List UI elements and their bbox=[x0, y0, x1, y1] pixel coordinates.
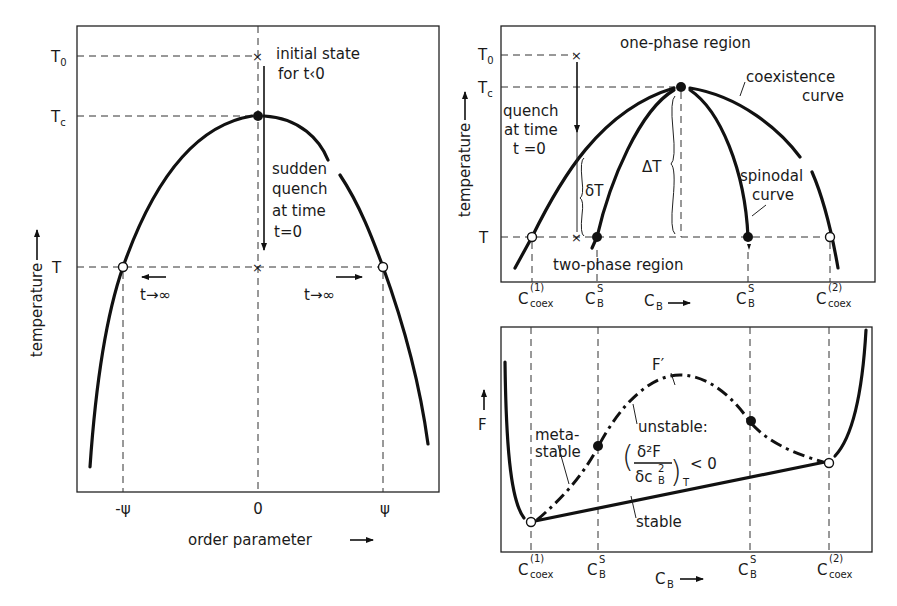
left-panel: × × initial state for t‹0 sudden quench … bbox=[28, 26, 439, 549]
spinodal-point-left bbox=[592, 232, 602, 242]
phase-diagram-figure: × × initial state for t‹0 sudden quench … bbox=[0, 0, 897, 606]
t-tick-label: T bbox=[51, 259, 62, 277]
svg-text:): ) bbox=[670, 454, 682, 489]
free-energy-left-branch bbox=[505, 362, 524, 518]
tc-tick-label: Tc bbox=[50, 108, 66, 128]
psi-tick: ψ bbox=[380, 500, 390, 518]
bottom-y-axis-label: F bbox=[478, 390, 487, 434]
svg-text:2: 2 bbox=[658, 463, 664, 474]
left-y-axis-label: temperature bbox=[28, 230, 46, 357]
phase-diagram-frame bbox=[501, 26, 875, 282]
initial-state-label-2: for t‹0 bbox=[278, 65, 325, 83]
svg-text:C: C bbox=[518, 290, 528, 308]
svg-text:(2): (2) bbox=[829, 553, 843, 564]
spinodal-point-left bbox=[593, 441, 603, 451]
svg-text:C: C bbox=[587, 561, 597, 579]
top-x-tick-ccoex2: C (2) coex bbox=[816, 282, 852, 309]
bottom-x-tick-cbs-left: C S B bbox=[587, 554, 606, 580]
sudden-quench-label-4: t=0 bbox=[274, 223, 302, 241]
svg-text:S: S bbox=[599, 554, 605, 565]
svg-text:C: C bbox=[655, 570, 665, 588]
svg-text:S: S bbox=[597, 283, 603, 294]
t0-tick-label: T0 bbox=[477, 46, 494, 66]
svg-text:(1): (1) bbox=[530, 282, 544, 293]
svg-text:temperature: temperature bbox=[456, 123, 474, 217]
quench-state-marker: × bbox=[571, 230, 582, 245]
spinodal-label-2: curve bbox=[752, 186, 794, 204]
coex-point-left bbox=[527, 518, 536, 527]
left-x-axis-label: order parameter bbox=[188, 531, 313, 549]
svg-text:coex: coex bbox=[530, 569, 554, 580]
stable-label: stable bbox=[636, 513, 682, 531]
initial-state-marker: × bbox=[252, 49, 263, 64]
free-energy-right-branch bbox=[835, 330, 866, 456]
sudden-quench-label-2: quench bbox=[272, 180, 328, 198]
svg-text:(1): (1) bbox=[530, 553, 544, 564]
bottom-x-tick-ccoex2: C (2) coex bbox=[817, 553, 853, 580]
svg-text:B: B bbox=[667, 579, 674, 590]
unstable-leader bbox=[633, 404, 637, 424]
quench-label-1: quench bbox=[503, 102, 559, 120]
critical-point-dot bbox=[253, 111, 263, 121]
spinodal-curve-left bbox=[592, 90, 674, 248]
two-phase-region-label: two-phase region bbox=[553, 256, 684, 274]
svg-text:C: C bbox=[518, 561, 528, 579]
quench-state-marker: × bbox=[252, 260, 263, 275]
t0-tick-label: T0 bbox=[50, 48, 67, 68]
svg-text:B: B bbox=[599, 569, 606, 580]
svg-text:(: ( bbox=[622, 439, 634, 474]
coexistence-leader bbox=[740, 82, 745, 96]
svg-text:C: C bbox=[736, 290, 746, 308]
delta-small-brace bbox=[580, 158, 584, 236]
coexistence-label-1: coexistence bbox=[746, 68, 835, 86]
bottom-x-axis-label: C B bbox=[655, 570, 703, 590]
sudden-quench-label-1: sudden bbox=[272, 160, 327, 178]
one-phase-region-label: one-phase region bbox=[620, 34, 751, 52]
stability-criterion-formula: ( δ²F δc 2 B ) T < 0 bbox=[622, 439, 717, 489]
spinodal-point-right bbox=[743, 232, 753, 242]
svg-text:coex: coex bbox=[829, 569, 853, 580]
coex-point-right bbox=[825, 459, 834, 468]
unstable-label: unstable: bbox=[638, 418, 708, 436]
sudden-quench-label-3: at time bbox=[272, 202, 326, 220]
top-right-panel: × × one-phase region two-phase region co… bbox=[456, 26, 875, 312]
svg-text:(2): (2) bbox=[828, 282, 842, 293]
minus-psi-tick: -ψ bbox=[115, 500, 130, 518]
svg-text:temperature: temperature bbox=[28, 263, 46, 357]
delta-big-brace bbox=[671, 96, 675, 234]
bottom-right-panel: F′ meta- stable unstable: ( δ²F δc 2 B )… bbox=[478, 327, 872, 590]
svg-text:B: B bbox=[656, 301, 663, 312]
coexistence-label-2: curve bbox=[802, 87, 844, 105]
bottom-x-tick-cbs-right: C S B bbox=[738, 554, 757, 580]
top-x-tick-cbs-right: C S B bbox=[736, 283, 755, 309]
t-infinity-left-label: t→∞ bbox=[140, 286, 171, 304]
critical-point-dot bbox=[676, 82, 686, 92]
svg-text:F: F bbox=[478, 416, 487, 434]
t-tick-label: T bbox=[478, 229, 489, 247]
top-x-tick-cbs-left: C S B bbox=[585, 283, 604, 309]
svg-text:S: S bbox=[748, 283, 754, 294]
delta-small-label: δT bbox=[585, 182, 604, 200]
metastable-label-1: meta- bbox=[535, 426, 579, 444]
top-x-axis-label: C B bbox=[644, 292, 690, 312]
tc-tick-label: Tc bbox=[477, 79, 493, 99]
bottom-x-tick-ccoex1: C (1) coex bbox=[518, 553, 554, 580]
delta-big-label: ΔT bbox=[642, 158, 662, 176]
quench-label-3: t =0 bbox=[513, 140, 546, 158]
spinodal-curve-right bbox=[690, 90, 748, 237]
svg-text:B: B bbox=[597, 298, 604, 309]
spinodal-label-1: spinodal bbox=[740, 167, 803, 185]
f-prime-label: F′ bbox=[652, 356, 665, 374]
svg-text:δc: δc bbox=[635, 468, 652, 486]
svg-text:C: C bbox=[644, 292, 654, 310]
svg-text:δ²F: δ²F bbox=[637, 443, 661, 461]
initial-state-label: initial state bbox=[276, 45, 360, 63]
quench-label-2: at time bbox=[504, 121, 558, 139]
svg-text:T: T bbox=[682, 477, 690, 488]
coexistence-point-left bbox=[528, 233, 537, 242]
svg-text:coex: coex bbox=[530, 298, 554, 309]
equilibrium-point-left bbox=[119, 263, 128, 272]
svg-text:B: B bbox=[658, 475, 665, 486]
spinodal-point-right bbox=[746, 416, 756, 426]
svg-text:S: S bbox=[750, 554, 756, 565]
